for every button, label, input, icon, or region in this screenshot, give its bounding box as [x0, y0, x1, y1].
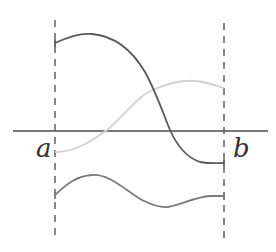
label-a: a: [36, 133, 52, 163]
bottom-wave-curve: [55, 175, 224, 207]
label-b: b: [233, 133, 250, 163]
light-increasing-curve: [55, 81, 224, 152]
interval-diagram: a b: [0, 0, 276, 252]
